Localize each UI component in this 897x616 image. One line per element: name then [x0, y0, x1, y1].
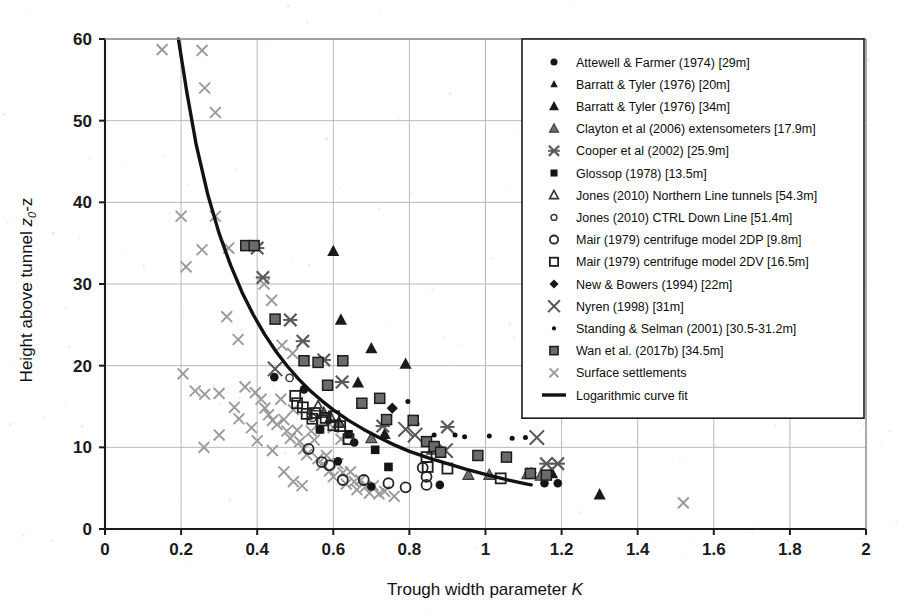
- x-tick-label: 1.4: [626, 540, 650, 559]
- data-point-gray-square: [357, 398, 367, 408]
- legend-item[interactable]: Mair (1979) centrifuge model 2DP [9.8m]: [550, 233, 802, 247]
- legend-item-label: Standing & Selman (2001) [30.5-31.2m]: [576, 322, 796, 336]
- legend-item-label: Jones (2010) CTRL Down Line [51.4m]: [576, 211, 792, 225]
- scan-speckle: [236, 169, 238, 171]
- legend-item-label: Surface settlements: [576, 366, 686, 380]
- data-point-filled-circle: [436, 481, 445, 490]
- scan-speckle: [443, 336, 445, 338]
- scan-speckle: [25, 10, 26, 11]
- scan-speckle: [380, 13, 382, 15]
- data-point-filled-square: [384, 463, 393, 472]
- scan-speckle: [65, 405, 67, 407]
- scan-speckle: [6, 221, 8, 223]
- x-tick-label: 0.8: [398, 540, 422, 559]
- x-tick-label: 0.2: [169, 540, 193, 559]
- legend-item[interactable]: Jones (2010) CTRL Down Line [51.4m]: [551, 211, 792, 225]
- y-tick-label: 0: [83, 520, 92, 539]
- legend-item[interactable]: Standing & Selman (2001) [30.5-31.2m]: [552, 322, 796, 336]
- y-tick-label: 50: [73, 112, 92, 131]
- legend-box: [522, 39, 864, 418]
- scan-speckle: [238, 397, 240, 399]
- scan-speckle: [189, 565, 190, 566]
- data-point-small-dot: [552, 326, 556, 330]
- scan-speckle: [458, 343, 460, 345]
- legend-item[interactable]: Barratt & Tyler (1976) [20m]: [550, 78, 730, 92]
- scan-speckle: [563, 537, 564, 538]
- scan-speckle: [81, 425, 84, 428]
- data-point-gray-square: [382, 415, 392, 425]
- data-point-gray-square: [550, 347, 558, 355]
- chart-canvas: 00.20.40.60.811.21.41.61.82 010203040506…: [0, 0, 897, 616]
- scan-speckle: [127, 254, 128, 255]
- scan-speckle: [513, 336, 516, 339]
- scan-speckle: [11, 362, 12, 363]
- legend-item[interactable]: Cooper et al (2002) [25.9m]: [548, 144, 729, 158]
- legend-item[interactable]: Clayton et al (2006) extensometers [17.9…: [549, 122, 815, 136]
- data-point-small-dot: [405, 399, 410, 404]
- scan-speckle: [100, 439, 103, 442]
- legend-item-label: Mair (1979) centrifuge model 2DV [16.5m]: [576, 255, 809, 269]
- legend-item-label: Attewell & Farmer (1974) [29m]: [576, 56, 750, 70]
- chart-legend[interactable]: Attewell & Farmer (1974) [29m]Barratt & …: [522, 39, 864, 418]
- scan-speckle: [331, 225, 332, 226]
- data-point-gray-square: [323, 380, 333, 390]
- x-tick-label: 2: [861, 540, 870, 559]
- data-point-gray-square: [525, 468, 535, 478]
- legend-item-label: Wan et al. (2017b) [34.5m]: [576, 344, 724, 358]
- legend-item-label: Glossop (1978) [13.5m]: [576, 167, 707, 181]
- scan-speckle: [178, 496, 179, 497]
- scan-speckle: [283, 452, 286, 455]
- y-tick-label: 30: [73, 275, 92, 294]
- data-point-small-dot: [432, 433, 437, 438]
- legend-item[interactable]: Jones (2010) Northern Line tunnels [54.3…: [550, 189, 818, 203]
- scan-speckle: [881, 442, 883, 444]
- scan-speckle: [78, 238, 80, 240]
- scan-speckle: [383, 322, 385, 324]
- data-point-filled-square: [316, 425, 325, 434]
- legend-item[interactable]: Attewell & Farmer (1974) [29m]: [550, 56, 749, 70]
- scan-speckle: [182, 311, 184, 313]
- legend-item[interactable]: Wan et al. (2017b) [34.5m]: [550, 344, 724, 358]
- scan-speckle: [509, 185, 511, 187]
- scan-speckle: [561, 37, 562, 38]
- legend-item[interactable]: Barratt & Tyler (1976) [34m]: [549, 100, 730, 114]
- data-point-filled-circle: [550, 58, 557, 65]
- scan-speckle: [290, 261, 292, 263]
- scan-speckle: [212, 385, 215, 388]
- data-point-gray-square: [375, 393, 385, 403]
- data-point-small-dot: [462, 434, 467, 439]
- scan-speckle: [774, 425, 777, 428]
- data-point-filled-square: [550, 169, 557, 176]
- data-point-gray-square: [473, 451, 483, 461]
- legend-item[interactable]: Mair (1979) centrifuge model 2DV [16.5m]: [550, 255, 809, 269]
- scan-speckle: [449, 362, 451, 364]
- scan-speckle: [43, 416, 45, 418]
- scan-speckle: [867, 59, 870, 62]
- legend-item[interactable]: New & Bowers (1994) [22m]: [549, 278, 732, 292]
- scan-speckle: [88, 158, 90, 160]
- scan-speckle: [679, 457, 681, 459]
- scan-speckle: [22, 534, 25, 537]
- scan-speckle: [324, 536, 326, 538]
- scan-speckle: [51, 232, 54, 235]
- scan-speckle: [68, 345, 71, 348]
- x-tick-label: 0: [100, 540, 109, 559]
- scan-speckle: [751, 532, 753, 534]
- x-tick-label: 1.2: [550, 540, 574, 559]
- legend-item-label: Cooper et al (2002) [25.9m]: [576, 144, 729, 158]
- data-point-gray-square: [501, 452, 511, 462]
- legend-item-label: Logarithmic curve fit: [576, 389, 688, 403]
- scan-speckle: [108, 437, 110, 439]
- data-point-small-dot: [453, 433, 458, 438]
- scan-speckle: [398, 118, 400, 120]
- scan-speckle: [421, 420, 423, 422]
- data-point-small-dot: [487, 433, 492, 438]
- scan-speckle: [143, 265, 146, 268]
- scan-speckle: [862, 425, 864, 427]
- data-point-small-dot: [523, 435, 528, 440]
- scan-speckle: [219, 404, 221, 406]
- data-point-gray-square: [408, 415, 418, 425]
- y-tick-label: 20: [73, 357, 92, 376]
- x-tick-label: 1.6: [702, 540, 726, 559]
- scan-speckle: [114, 530, 116, 532]
